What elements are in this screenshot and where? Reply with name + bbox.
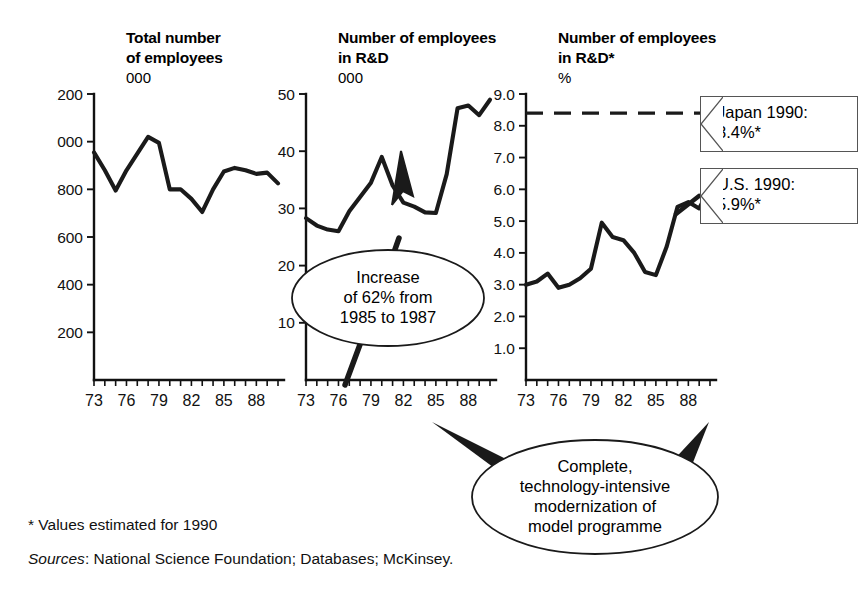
ellipse-shape bbox=[470, 438, 720, 556]
x-tick-label: 73 bbox=[297, 392, 315, 409]
y-tick-label: 4.0 bbox=[493, 244, 515, 261]
callout-modernization[interactable]: Complete, technology-intensive moderniza… bbox=[470, 438, 720, 556]
y-tick-label: 50 bbox=[278, 86, 296, 103]
chart-1-plot: 2004006008001,0001,200737679828588 bbox=[56, 86, 292, 416]
sources-label: Sources bbox=[28, 550, 85, 567]
chart-1-title: Total number of employees bbox=[126, 28, 223, 68]
y-tick-label: 7.0 bbox=[493, 149, 515, 166]
x-tick-label: 85 bbox=[647, 392, 665, 409]
y-tick-label: 600 bbox=[57, 229, 83, 246]
chart-1-unit: 000 bbox=[126, 70, 151, 87]
x-tick-label: 82 bbox=[615, 392, 633, 409]
chart-2-title: Number of employees in R&D bbox=[338, 28, 496, 68]
series-line bbox=[94, 137, 278, 212]
y-tick-label: 800 bbox=[57, 181, 83, 198]
x-tick-label: 85 bbox=[427, 392, 445, 409]
y-tick-label: 400 bbox=[57, 276, 83, 293]
y-tick-label: 1,200 bbox=[56, 86, 83, 103]
chart-3-title: Number of employees in R&D* bbox=[558, 28, 716, 68]
y-tick-label: 8.0 bbox=[493, 117, 515, 134]
chart-3-unit: % bbox=[558, 70, 571, 87]
series-line bbox=[306, 100, 490, 232]
chart-panel-total-employees: Total number of employees 000 2004006008… bbox=[56, 28, 292, 418]
chart-panel-rd-employees: Number of employees in R&D 000 102030405… bbox=[268, 28, 504, 418]
y-tick-label: 1.0 bbox=[493, 340, 515, 357]
callout-us-line2: 5.9%* bbox=[717, 195, 847, 215]
callout-japan-1990[interactable]: Japan 1990: 8.4%* bbox=[700, 96, 858, 152]
callout-increase-62-percent[interactable]: Increase of 62% from 1985 to 1987 bbox=[290, 248, 486, 348]
x-tick-label: 82 bbox=[395, 392, 413, 409]
y-tick-label: 30 bbox=[278, 200, 296, 217]
chart-2-unit: 000 bbox=[338, 70, 363, 87]
y-tick-label: 2.0 bbox=[493, 308, 515, 325]
x-tick-label: 79 bbox=[582, 392, 600, 409]
x-tick-label: 76 bbox=[550, 392, 568, 409]
x-tick-label: 73 bbox=[517, 392, 535, 409]
y-tick-label: 3.0 bbox=[493, 276, 515, 293]
x-tick-label: 85 bbox=[215, 392, 233, 409]
figure-root: Total number of employees 000 2004006008… bbox=[0, 0, 862, 596]
chart-panel-rd-share: Number of employees in R&D* % 1.02.03.04… bbox=[488, 28, 724, 418]
y-tick-label: 200 bbox=[57, 324, 83, 341]
x-tick-label: 73 bbox=[85, 392, 103, 409]
x-tick-label: 79 bbox=[362, 392, 380, 409]
ellipse-shape bbox=[290, 248, 486, 348]
x-tick-label: 88 bbox=[459, 392, 477, 409]
chart-3-plot: 1.02.03.04.05.06.07.08.09.0737679828588 bbox=[488, 86, 724, 416]
x-tick-label: 88 bbox=[247, 392, 265, 409]
x-tick-label: 88 bbox=[679, 392, 697, 409]
y-tick-label: 40 bbox=[278, 143, 296, 160]
y-tick-label: 9.0 bbox=[493, 86, 515, 103]
y-tick-label: 1,000 bbox=[56, 133, 83, 150]
callout-japan-line2: 8.4%* bbox=[717, 123, 847, 143]
y-tick-label: 5.0 bbox=[493, 213, 515, 230]
x-tick-label: 82 bbox=[183, 392, 201, 409]
sources-list: : National Science Foundation; Databases… bbox=[85, 550, 453, 567]
y-tick-label: 6.0 bbox=[493, 181, 515, 198]
callout-us-line1: U.S. 1990: bbox=[717, 175, 847, 195]
callout-japan-line1: Japan 1990: bbox=[717, 103, 847, 123]
x-tick-label: 76 bbox=[118, 392, 136, 409]
x-tick-label: 76 bbox=[330, 392, 348, 409]
callout-us-1990[interactable]: U.S. 1990: 5.9%* bbox=[700, 168, 858, 224]
footnote-sources: Sources: National Science Foundation; Da… bbox=[28, 550, 453, 568]
footnote-estimated-values: * Values estimated for 1990 bbox=[28, 516, 217, 534]
x-tick-label: 79 bbox=[150, 392, 168, 409]
series-line bbox=[526, 188, 710, 288]
